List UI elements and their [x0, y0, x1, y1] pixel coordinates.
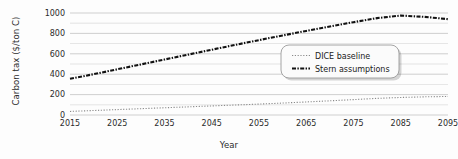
x-tick-label: 2055 [249, 119, 269, 128]
legend-label: Stern assumptions [315, 65, 390, 74]
legend-label: DICE baseline [315, 52, 370, 61]
x-tick-label: 2095 [438, 119, 458, 128]
y-tick-label: 800 [50, 29, 65, 38]
x-tick-label: 2035 [154, 119, 174, 128]
chart-legend: DICE baselineStern assumptions [281, 45, 402, 81]
x-tick-labels-group: 201520252035204520552065207520852095 [60, 119, 458, 128]
x-tick-label: 2075 [343, 119, 363, 128]
x-tick-label: 2065 [296, 119, 316, 128]
y-tick-label: 400 [50, 70, 65, 79]
x-tick-label: 2085 [391, 119, 411, 128]
x-tick-label: 2025 [107, 119, 127, 128]
x-tick-label: 2015 [60, 119, 80, 128]
series-line-dice-baseline [70, 96, 448, 111]
y-tick-label: 1000 [45, 9, 65, 18]
y-tick-labels-group: 02004006008001000 [45, 9, 65, 120]
chart-figure: Carbon tax ($/ton C) Year 02004006008001… [0, 0, 458, 159]
chart-canvas: 02004006008001000 2015202520352045205520… [0, 0, 458, 159]
y-tick-label: 600 [50, 50, 65, 59]
x-tick-label: 2045 [202, 119, 222, 128]
y-tick-label: 200 [50, 90, 65, 99]
